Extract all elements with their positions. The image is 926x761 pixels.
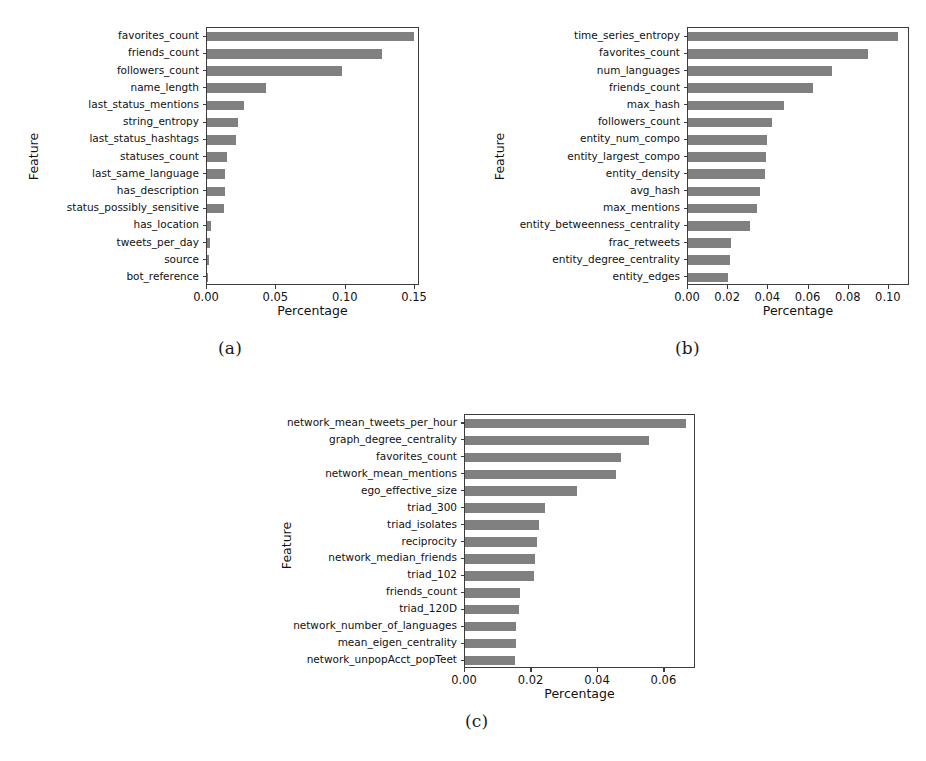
- bar: [465, 486, 577, 495]
- y-tick-mark: [203, 242, 207, 243]
- y-tick-label: favorites_count: [0, 30, 199, 41]
- bar-row: [688, 49, 908, 59]
- bar-row: [465, 470, 694, 479]
- x-tick-label: 0.02: [500, 675, 560, 687]
- y-tick-label: bot_reference: [0, 271, 199, 282]
- bar: [688, 49, 868, 59]
- bar-row: [207, 118, 418, 128]
- bar-row: [465, 436, 694, 445]
- bar: [207, 101, 244, 111]
- x-tick-mark: [767, 285, 768, 289]
- plot-area-a: [206, 27, 419, 285]
- bar: [688, 32, 898, 42]
- bar: [688, 238, 731, 248]
- x-tick-mark: [808, 285, 809, 289]
- y-axis-title-a: Feature: [26, 117, 41, 197]
- x-tick-label: 0.06: [633, 675, 693, 687]
- y-tick-label: ego_effective_size: [231, 485, 457, 496]
- bar: [207, 135, 236, 145]
- y-tick-label: triad_102: [231, 569, 457, 580]
- y-tick-mark: [461, 609, 465, 610]
- x-tick-label: 0.05: [245, 292, 305, 304]
- bar-series-a: [207, 28, 418, 284]
- y-tick-mark: [203, 87, 207, 88]
- y-tick-label: max_mentions: [463, 202, 680, 213]
- y-tick-label: friends_count: [0, 47, 199, 58]
- y-tick-mark: [684, 70, 688, 71]
- y-tick-mark: [684, 104, 688, 105]
- y-tick-mark: [203, 190, 207, 191]
- x-tick-mark: [464, 668, 465, 672]
- bar-row: [688, 204, 908, 214]
- bar-row: [465, 554, 694, 563]
- bar-row: [688, 169, 908, 179]
- y-tick-label: entity_betweenness_centrality: [463, 219, 680, 230]
- bar-row: [207, 238, 418, 248]
- x-tick-mark: [275, 285, 276, 289]
- bar-row: [207, 187, 418, 197]
- bar-row: [688, 152, 908, 162]
- bar-row: [465, 588, 694, 597]
- bar-row: [465, 486, 694, 495]
- bar: [465, 520, 539, 529]
- x-tick-mark: [345, 285, 346, 289]
- y-tick-mark: [461, 660, 465, 661]
- bar-row: [688, 221, 908, 231]
- y-tick-label: has_location: [0, 219, 199, 230]
- y-tick-label: time_series_entropy: [463, 30, 680, 41]
- y-tick-label: reciprocity: [231, 536, 457, 547]
- y-tick-label: frac_retweets: [463, 237, 680, 248]
- bar-row: [688, 118, 908, 128]
- figure-root: favorites_countfriends_countfollowers_co…: [0, 0, 926, 761]
- y-tick-mark: [461, 490, 465, 491]
- x-tick-mark: [687, 285, 688, 289]
- bar: [207, 83, 266, 93]
- y-tick-mark: [461, 524, 465, 525]
- bar: [207, 32, 414, 42]
- bar-row: [465, 520, 694, 529]
- bar: [465, 605, 519, 614]
- y-tick-mark: [684, 36, 688, 37]
- bar: [465, 436, 649, 445]
- y-tick-mark: [461, 507, 465, 508]
- y-tick-mark: [461, 422, 465, 423]
- x-tick-mark: [414, 285, 415, 289]
- panel-c: network_mean_tweets_per_hourgraph_degree…: [231, 393, 694, 738]
- panel-caption-b: (b): [675, 338, 700, 358]
- y-tick-label: source: [0, 254, 199, 265]
- bar-row: [207, 273, 418, 283]
- bar: [465, 453, 621, 462]
- x-tick-label: 0.10: [315, 292, 375, 304]
- bar-series-b: [688, 28, 908, 284]
- bar-row: [688, 187, 908, 197]
- y-tick-mark: [461, 439, 465, 440]
- x-tick-mark: [206, 285, 207, 289]
- bar: [207, 49, 382, 59]
- y-tick-mark: [203, 70, 207, 71]
- bar-row: [688, 238, 908, 248]
- bar-row: [207, 169, 418, 179]
- y-tick-mark: [684, 276, 688, 277]
- y-tick-label: network_number_of_languages: [231, 620, 457, 631]
- plot-area-b: [687, 27, 909, 285]
- y-tick-mark: [684, 156, 688, 157]
- y-tick-mark: [684, 122, 688, 123]
- y-tick-mark: [684, 242, 688, 243]
- bar: [465, 588, 520, 597]
- y-tick-label: network_median_friends: [231, 552, 457, 563]
- y-tick-mark: [203, 208, 207, 209]
- bar-row: [207, 135, 418, 145]
- bar-row: [688, 273, 908, 283]
- y-tick-label: network_mean_tweets_per_hour: [231, 417, 457, 428]
- x-tick-mark: [888, 285, 889, 289]
- y-tick-mark: [203, 173, 207, 174]
- bar-row: [465, 622, 694, 631]
- y-tick-mark: [684, 87, 688, 88]
- bar: [688, 169, 765, 179]
- bar-row: [465, 453, 694, 462]
- bar-row: [688, 255, 908, 265]
- x-axis-title-c: Percentage: [464, 686, 695, 701]
- y-tick-mark: [203, 156, 207, 157]
- x-tick-label: 0.00: [176, 292, 236, 304]
- y-tick-mark: [203, 36, 207, 37]
